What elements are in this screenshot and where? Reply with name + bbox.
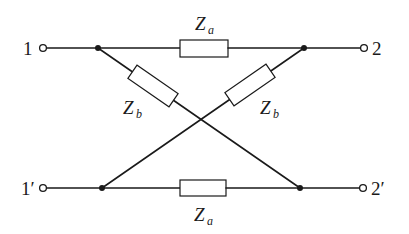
terminal-label-2-prime: 2′ [371, 178, 385, 199]
label-za-bottom-symbol: Z [194, 204, 205, 225]
junction-node-top-left [95, 45, 101, 51]
impedance-za-top [180, 40, 228, 57]
terminal-2-prime [360, 185, 367, 192]
label-za-top: Z a [195, 13, 214, 37]
label-za-top-symbol: Z [195, 13, 206, 34]
label-zb-left: Z b [123, 97, 142, 121]
label-za-bottom: Z a [194, 204, 213, 228]
label-zb-right: Z b [260, 97, 279, 121]
terminal-1 [40, 45, 47, 52]
label-za-top-subscript: a [208, 23, 214, 37]
label-zb-left-subscript: b [136, 107, 142, 121]
junction-node-bottom-left [99, 185, 105, 191]
terminal-label-2: 2 [372, 38, 382, 59]
impedance-za-bottom [180, 180, 226, 196]
terminal-label-1: 1 [23, 38, 33, 59]
junction-node-top-right [301, 45, 307, 51]
impedance-zb-left [128, 65, 178, 107]
terminal-1-prime [40, 185, 47, 192]
label-zb-right-symbol: Z [260, 97, 271, 118]
junction-node-bottom-right [297, 185, 303, 191]
terminal-label-1-prime: 1′ [21, 178, 35, 199]
terminal-2 [361, 45, 368, 52]
label-zb-left-symbol: Z [123, 97, 134, 118]
label-zb-right-subscript: b [273, 107, 279, 121]
label-za-bottom-subscript: a [207, 214, 213, 228]
bottom-rail [47, 180, 359, 196]
top-rail [47, 40, 360, 57]
lattice-network-diagram: 1 2 1′ 2′ Z a Z a Z b Z b [0, 0, 409, 234]
